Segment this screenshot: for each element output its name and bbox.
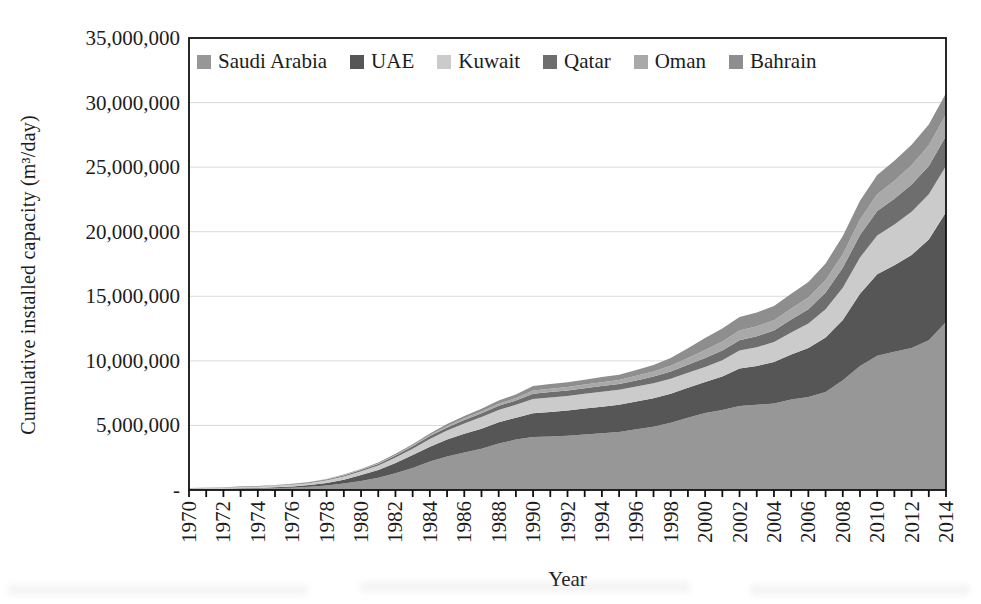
y-tick-label: 20,000,000 xyxy=(86,220,181,244)
legend-label: Qatar xyxy=(564,49,611,74)
legend-swatch xyxy=(350,55,364,69)
legend: Saudi ArabiaUAEKuwaitQatarOmanBahrain xyxy=(197,49,817,74)
x-tick-label: 1972 xyxy=(211,501,235,543)
x-tick-label: 2002 xyxy=(728,501,752,543)
legend-item-qatar: Qatar xyxy=(543,49,611,74)
x-tick-label: 2000 xyxy=(693,501,717,543)
legend-item-saudi-arabia: Saudi Arabia xyxy=(197,49,327,74)
x-tick-label: 1970 xyxy=(177,501,201,543)
x-tick-label: 2008 xyxy=(831,501,855,543)
legend-swatch xyxy=(634,55,648,69)
x-tick-label: 1994 xyxy=(590,501,614,544)
y-tick-label: 30,000,000 xyxy=(86,91,181,115)
legend-item-bahrain: Bahrain xyxy=(729,49,816,74)
y-tick-label: - xyxy=(173,478,180,502)
legend-swatch xyxy=(543,55,557,69)
x-tick-label: 1992 xyxy=(556,501,580,543)
y-tick-label: 15,000,000 xyxy=(86,284,181,308)
legend-swatch xyxy=(197,55,211,69)
legend-item-oman: Oman xyxy=(634,49,706,74)
x-tick-label: 2012 xyxy=(900,501,924,543)
y-tick-label: 5,000,000 xyxy=(96,413,180,437)
legend-label: Oman xyxy=(655,49,706,74)
page-bleedthrough-text xyxy=(360,582,690,592)
legend-label: Saudi Arabia xyxy=(218,49,327,74)
legend-item-kuwait: Kuwait xyxy=(437,49,520,74)
page-bleedthrough-text xyxy=(8,585,308,595)
x-tick-label: 2006 xyxy=(796,501,820,543)
x-tick-label: 1984 xyxy=(418,501,442,544)
x-tick-label: 1990 xyxy=(521,501,545,543)
x-tick-label: 2010 xyxy=(865,501,889,543)
page-bleedthrough-text xyxy=(750,585,970,595)
x-tick-label: 1976 xyxy=(280,501,304,543)
x-tick-label: 1974 xyxy=(246,501,270,544)
legend-label: UAE xyxy=(371,49,414,74)
y-tick-label: 35,000,000 xyxy=(86,26,181,50)
figure: 1970197219741976197819801982198419861988… xyxy=(0,0,981,604)
legend-label: Bahrain xyxy=(750,49,816,74)
legend-swatch xyxy=(437,55,451,69)
x-tick-label: 1980 xyxy=(349,501,373,543)
x-axis: 1970197219741976197819801982198419861988… xyxy=(177,490,958,543)
y-axis-title: Cumulative installed capacity (m³/day) xyxy=(17,95,43,455)
y-tick-label: 10,000,000 xyxy=(86,349,181,373)
y-axis: -5,000,00010,000,00015,000,00020,000,000… xyxy=(86,26,181,502)
x-tick-label: 1986 xyxy=(452,501,476,543)
area-series xyxy=(189,93,946,490)
legend-swatch xyxy=(729,55,743,69)
legend-item-uae: UAE xyxy=(350,49,414,74)
y-tick-label: 25,000,000 xyxy=(86,155,181,179)
x-tick-label: 1978 xyxy=(315,501,339,543)
x-tick-label: 2014 xyxy=(934,501,958,544)
legend-label: Kuwait xyxy=(458,49,520,74)
x-tick-label: 1988 xyxy=(487,501,511,543)
x-tick-label: 2004 xyxy=(762,501,786,544)
x-tick-label: 1996 xyxy=(624,501,648,543)
stacked-area-chart: 1970197219741976197819801982198419861988… xyxy=(0,0,981,604)
x-tick-label: 1998 xyxy=(659,501,683,543)
x-tick-label: 1982 xyxy=(383,501,407,543)
